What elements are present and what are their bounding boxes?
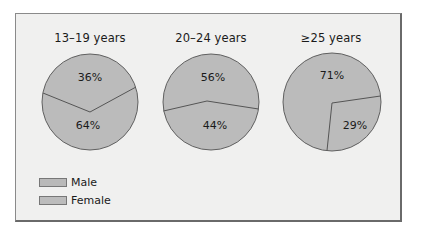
pie-25-plus: 71% 29% [283, 53, 381, 151]
legend-label-male: Male [71, 176, 97, 189]
legend-label-female: Female [71, 194, 111, 207]
legend-swatch-male [39, 178, 67, 187]
legend: Male Female [39, 173, 111, 209]
pie-20-24-male-pct: 56% [201, 71, 225, 84]
pie-13-19-male-pct: 36% [78, 71, 102, 84]
legend-item-male: Male [39, 173, 111, 191]
pie-20-24-female-pct: 44% [203, 119, 227, 132]
pie-25-plus-female-pct: 29% [343, 119, 367, 132]
pie-25-plus-male-pct: 71% [320, 69, 344, 82]
pie-13-19-disc [42, 54, 138, 150]
pie-13-19-female-pct: 64% [76, 119, 100, 132]
pie-25-plus-disc [283, 53, 381, 151]
legend-item-female: Female [39, 191, 111, 209]
legend-swatch-female [39, 196, 67, 205]
pie-20-24: 56% 44% [163, 54, 259, 150]
pie-13-19: 36% 64% [42, 54, 138, 150]
